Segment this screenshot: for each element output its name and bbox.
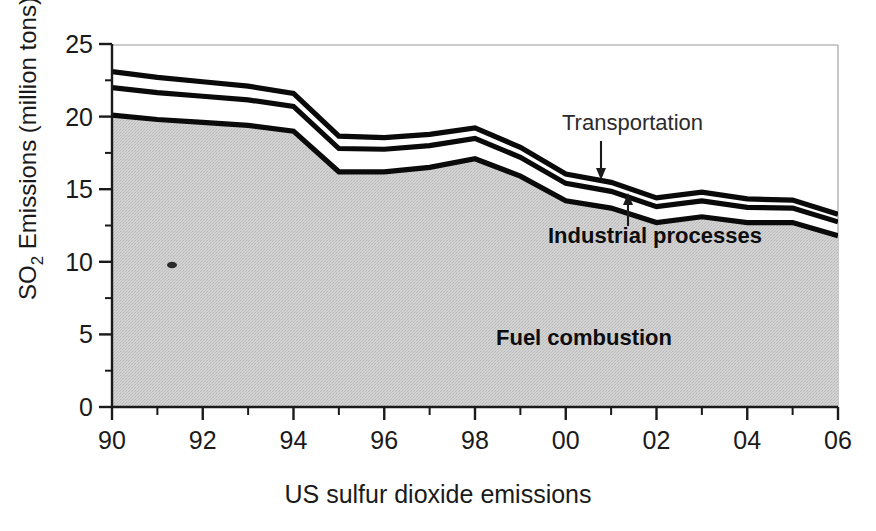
scan-artifact-speck xyxy=(167,262,177,268)
x-tick-label: 06 xyxy=(824,426,852,454)
x-tick-label: 94 xyxy=(280,426,308,454)
y-tick-label: 10 xyxy=(65,248,93,276)
x-tick-label: 96 xyxy=(370,426,398,454)
y-axis-title-subscript: 2 xyxy=(28,256,47,265)
annotation-industrial-label: Industrial processes xyxy=(548,223,762,248)
x-tick-label: 98 xyxy=(461,426,489,454)
y-axis-title-main: SO xyxy=(14,265,41,300)
y-tick-label: 25 xyxy=(65,30,93,58)
y-tick-label: 5 xyxy=(79,320,93,348)
x-tick-label: 00 xyxy=(552,426,580,454)
x-tick-label: 04 xyxy=(733,426,761,454)
y-tick-label: 0 xyxy=(79,393,93,421)
figure-container: 0510152025 909294969800020406 SO2 Emissi… xyxy=(0,0,876,531)
x-tick-label: 02 xyxy=(643,426,671,454)
stacked-area-chart: 0510152025 909294969800020406 SO2 Emissi… xyxy=(0,0,876,531)
x-tick-label: 90 xyxy=(98,426,126,454)
figure-caption: US sulfur dioxide emissions xyxy=(284,480,591,508)
y-axis-title-rest: Emissions (million tons) xyxy=(14,0,41,256)
x-tick-label: 92 xyxy=(189,426,217,454)
y-tick-label: 20 xyxy=(65,103,93,131)
annotation-fuel-combustion: Fuel combustion xyxy=(496,325,672,350)
y-tick-label: 15 xyxy=(65,175,93,203)
annotation-fuel-label: Fuel combustion xyxy=(496,325,672,350)
annotation-transportation-label: Transportation xyxy=(562,110,703,135)
